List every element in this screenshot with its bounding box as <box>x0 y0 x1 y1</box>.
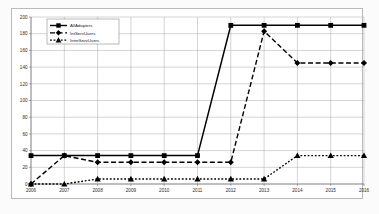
data-point-marker <box>328 60 334 66</box>
x-tick-label: 2012 <box>226 188 237 193</box>
data-point-marker <box>161 159 167 165</box>
line-chart: 0204060801001201401601802002006200720082… <box>0 0 379 214</box>
x-tick-label: 2016 <box>359 188 370 193</box>
x-tick-label: 2008 <box>92 188 103 193</box>
data-point-marker <box>95 159 101 165</box>
data-point-marker <box>56 23 60 27</box>
x-tick-label: 2013 <box>259 188 270 193</box>
legend-label: IntServUsers <box>70 31 96 36</box>
y-tick-label: 140 <box>20 65 28 70</box>
x-tick-label: 2015 <box>326 188 337 193</box>
legend-label: AllAdopters <box>70 23 93 28</box>
data-point-marker <box>228 23 233 28</box>
y-axis-tick-labels: 020406080100120140160180200 <box>20 15 31 187</box>
legend-label: InterServUsers <box>70 38 100 43</box>
data-point-marker <box>362 23 367 28</box>
data-point-marker <box>195 159 201 165</box>
data-point-marker <box>328 23 333 28</box>
y-tick-label: 100 <box>20 98 28 103</box>
y-tick-label: 60 <box>22 132 28 137</box>
x-tick-label: 2007 <box>59 188 70 193</box>
data-point-marker <box>29 153 34 158</box>
data-point-marker <box>261 28 267 34</box>
data-point-marker <box>194 176 200 182</box>
data-point-marker <box>95 153 100 158</box>
y-tick-label: 200 <box>20 15 28 20</box>
x-tick-label: 2011 <box>193 188 203 193</box>
legend-item-AllAdopters: AllAdopters <box>50 23 93 28</box>
data-point-marker <box>162 153 167 158</box>
x-tick-label: 2014 <box>292 188 303 193</box>
data-point-marker <box>128 159 134 165</box>
x-tick-label: 2009 <box>126 188 137 193</box>
legend: AllAdoptersIntServUsersInterServUsers <box>47 19 119 44</box>
y-tick-label: 0 <box>25 182 28 187</box>
data-point-marker <box>262 23 267 28</box>
data-point-marker <box>295 23 300 28</box>
x-tick-label: 2006 <box>26 188 37 193</box>
y-tick-label: 40 <box>22 148 28 153</box>
y-tick-label: 120 <box>20 82 28 87</box>
x-tick-label: 2010 <box>159 188 170 193</box>
y-tick-label: 180 <box>20 31 28 36</box>
chart-figure: 0204060801001201401601802002006200720082… <box>0 0 379 214</box>
y-tick-label: 160 <box>20 48 28 53</box>
y-tick-label: 20 <box>22 165 28 170</box>
data-point-marker <box>228 159 234 165</box>
data-point-marker <box>195 153 200 158</box>
data-point-marker <box>294 152 300 158</box>
data-point-marker <box>361 60 367 66</box>
y-tick-label: 80 <box>22 115 28 120</box>
data-point-marker <box>129 153 134 158</box>
x-axis-tick-labels: 2006200720082009201020112012201320142015… <box>26 184 370 193</box>
